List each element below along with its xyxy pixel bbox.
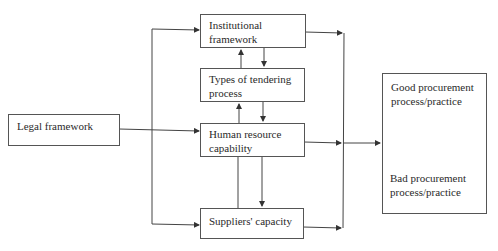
tendering-process-line1: Types of tendering	[209, 72, 296, 86]
human-resource-line2: capability	[209, 141, 296, 155]
human-resource-line1: Human resource	[209, 127, 296, 141]
suppliers-capacity-label: Suppliers' capacity	[209, 214, 295, 228]
bad-procurement-line2: process/practice	[390, 185, 466, 199]
bad-procurement-line1: Bad procurement	[390, 171, 466, 185]
tendering-process-line2: process	[209, 86, 296, 100]
good-procurement-line2: process/practice	[391, 94, 474, 108]
suppliers-capacity-box: Suppliers' capacity	[200, 208, 304, 239]
legal-framework-box: Legal framework	[8, 114, 120, 146]
institutional-framework-line2: framework	[209, 32, 297, 46]
institutional-framework-box: Institutional framework	[200, 14, 306, 48]
good-procurement-label: Good procurement process/practice	[391, 80, 474, 108]
legal-framework-label: Legal framework	[17, 119, 111, 133]
institutional-framework-line1: Institutional	[209, 18, 297, 32]
bad-procurement-label: Bad procurement process/practice	[390, 171, 466, 199]
tendering-process-box: Types of tendering process	[200, 68, 305, 102]
human-resource-box: Human resource capability	[200, 123, 305, 157]
good-procurement-line1: Good procurement	[391, 80, 474, 94]
